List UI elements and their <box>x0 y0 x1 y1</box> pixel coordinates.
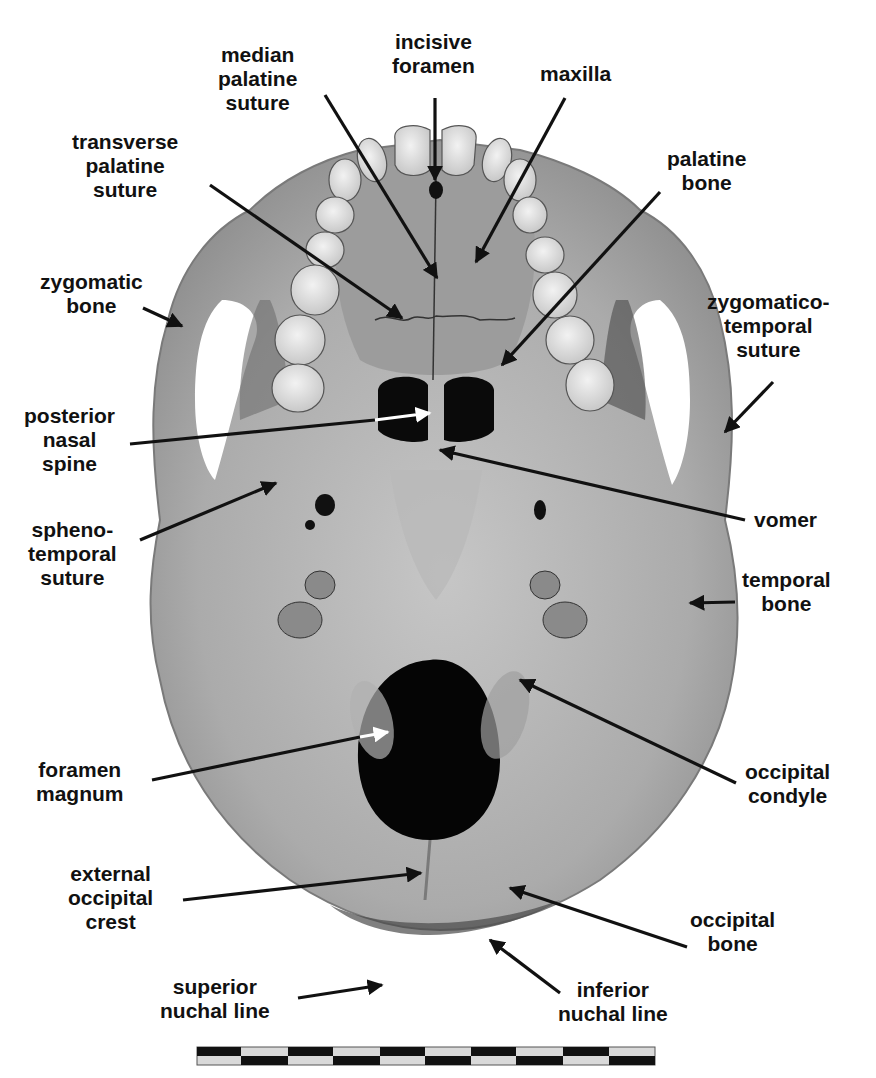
label-occipital-condyle: occipital condyle <box>745 760 830 808</box>
label-incisive-foramen: incisive foramen <box>392 30 475 78</box>
scale-bar <box>197 1047 655 1065</box>
label-spheno-temporal-suture: spheno- temporal suture <box>28 518 117 590</box>
label-foramen-magnum: foramen magnum <box>36 758 124 806</box>
arrow-occipital-bone <box>510 888 687 947</box>
arrow-temporal-bone <box>690 602 735 603</box>
label-zygomatic-bone: zygomatic bone <box>40 270 143 318</box>
label-maxilla: maxilla <box>540 62 611 86</box>
label-external-occipital-crest: external occipital crest <box>68 862 153 934</box>
label-palatine-bone: palatine bone <box>667 147 746 195</box>
skull-inferior-view-figure: incisive foramen median palatine suture … <box>0 0 876 1078</box>
label-superior-nuchal-line: superior nuchal line <box>160 975 270 1023</box>
label-occipital-bone: occipital bone <box>690 908 775 956</box>
label-inferior-nuchal-line: inferior nuchal line <box>558 978 668 1026</box>
label-vomer: vomer <box>754 508 817 532</box>
label-zygomatico-temporal-suture: zygomatico- temporal suture <box>707 290 830 362</box>
label-temporal-bone: temporal bone <box>742 568 831 616</box>
label-median-palatine-suture: median palatine suture <box>218 43 297 115</box>
arrow-superior-nuchal-line <box>298 985 382 998</box>
label-posterior-nasal-spine: posterior nasal spine <box>24 404 115 476</box>
arrow-inferior-nuchal-line <box>490 940 560 993</box>
skull-base <box>151 140 738 935</box>
label-transverse-palatine-suture: transverse palatine suture <box>72 130 178 202</box>
